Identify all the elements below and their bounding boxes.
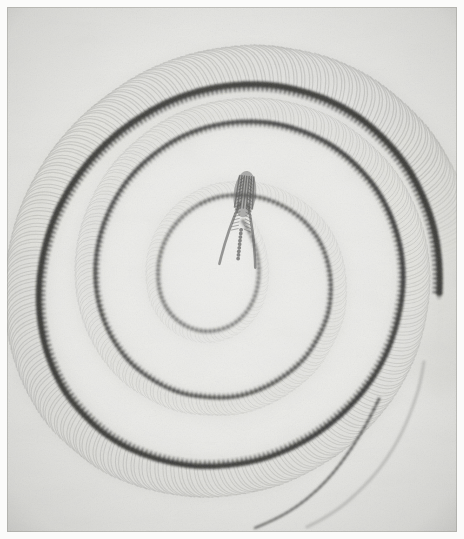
- radiograph-image: [7, 7, 457, 532]
- caption: [0, 532, 464, 539]
- radiograph-svg: [7, 7, 457, 532]
- photographic-print: [0, 0, 464, 539]
- film-grain: [7, 7, 457, 532]
